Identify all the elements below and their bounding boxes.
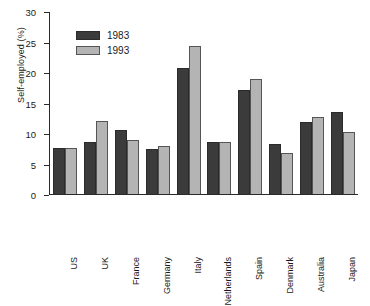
bar-france-1993 [127,140,139,194]
bar-uk-1993 [96,121,108,194]
bar-group-italy [173,12,204,194]
y-tick-label-25: 25 [25,37,36,48]
x-axis-labels: USUKFranceGermanyItalyNetherlandsSpainDe… [50,199,358,261]
x-axis-label-uk: UK [101,257,110,270]
bar-netherlands-1983 [207,142,219,194]
y-tick-label-10: 10 [25,129,36,140]
y-tick-5 [44,165,49,166]
bar-us-1983 [53,148,65,194]
bar-group-japan [327,12,358,194]
y-tick-0 [44,195,49,196]
bar-italy-1993 [189,46,201,194]
bar-australia-1983 [300,122,312,194]
x-axis-label-spain: Spain [255,257,264,280]
x-axis-label-netherlands: Netherlands [224,257,233,306]
y-tick-30 [44,12,49,13]
y-tick-label-30: 30 [25,7,36,18]
x-axis-line [49,194,358,195]
legend-swatch-1993 [76,46,100,55]
legend: 1983 1993 [76,29,129,59]
bar-germany-1983 [146,149,158,194]
bar-group-australia [296,12,327,194]
y-tick-15 [44,104,49,105]
bar-us-1993 [65,148,77,194]
y-axis-title: Self-employed (%) [16,0,26,130]
y-tick-25 [44,43,49,44]
bar-spain-1983 [238,90,250,194]
legend-label-1983: 1983 [107,30,129,41]
bar-france-1983 [115,130,127,194]
x-axis-label-italy: Italy [194,257,203,274]
bar-uk-1983 [84,142,96,194]
bar-denmark-1983 [269,144,281,194]
y-tick-label-15: 15 [25,98,36,109]
bar-australia-1993 [312,117,324,194]
x-axis-label-japan: Japan [348,257,357,282]
bar-spain-1993 [250,79,262,194]
bar-italy-1983 [177,68,189,194]
bar-group-spain [235,12,266,194]
bar-netherlands-1993 [219,142,231,194]
y-tick-10 [44,134,49,135]
legend-label-1993: 1993 [107,45,129,56]
y-tick-label-0: 0 [31,190,36,201]
y-tick-20 [44,73,49,74]
x-axis-label-denmark: Denmark [286,257,295,294]
legend-swatch-1983 [76,31,100,40]
bar-japan-1983 [331,112,343,194]
bar-group-netherlands [204,12,235,194]
legend-item-1993: 1993 [76,44,129,57]
bar-group-denmark [266,12,297,194]
x-axis-label-france: France [132,257,141,285]
x-axis-label-australia: Australia [317,257,326,292]
bar-germany-1993 [158,146,170,194]
bar-denmark-1993 [281,153,293,194]
y-tick-label-20: 20 [25,68,36,79]
y-tick-label-5: 5 [31,159,36,170]
x-axis-label-germany: Germany [163,257,172,294]
bar-group-germany [142,12,173,194]
legend-item-1983: 1983 [76,29,129,42]
x-axis-label-us: US [70,257,79,270]
bar-japan-1993 [343,132,355,194]
